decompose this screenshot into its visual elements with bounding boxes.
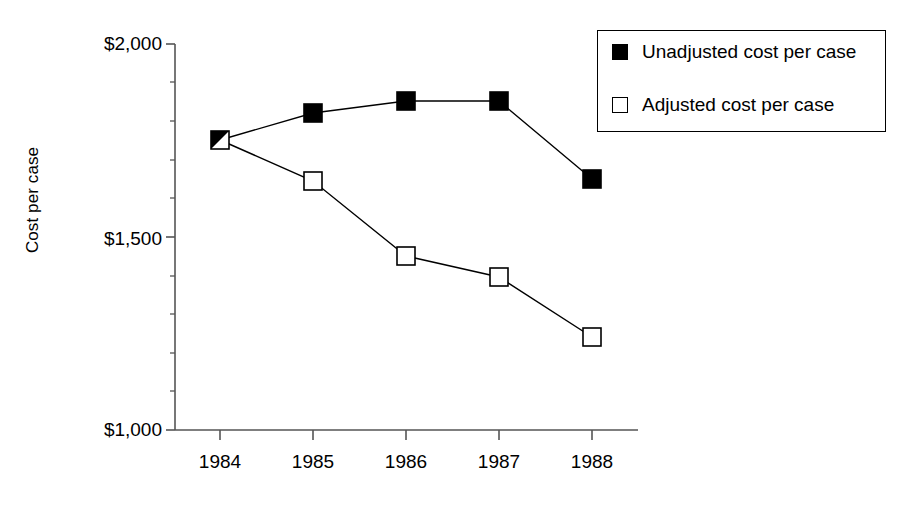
data-point-unadjusted-1985 bbox=[304, 104, 322, 122]
data-point-adjusted-1986 bbox=[397, 247, 415, 265]
data-point-adjusted-1988 bbox=[583, 328, 601, 346]
legend-item-adjusted[interactable]: Adjusted cost per case bbox=[612, 93, 834, 117]
x-ticks bbox=[220, 430, 592, 440]
data-point-unadjusted-1986 bbox=[397, 92, 415, 110]
chart-figure: Cost per case $2,000 $1,500 $1,000 1984 … bbox=[0, 0, 907, 510]
y-major-ticks bbox=[166, 44, 175, 430]
open-square-icon bbox=[612, 97, 628, 113]
chart-legend: Unadjusted cost per case Adjusted cost p… bbox=[597, 30, 886, 132]
series-line-unadjusted bbox=[220, 101, 592, 179]
filled-square-icon bbox=[612, 44, 628, 60]
legend-label-unadjusted: Unadjusted cost per case bbox=[642, 40, 856, 64]
data-point-unadjusted-1988 bbox=[583, 170, 601, 188]
series-line-adjusted bbox=[220, 140, 592, 337]
data-point-adjusted-1987 bbox=[490, 268, 508, 286]
data-point-adjusted-1985 bbox=[304, 172, 322, 190]
data-point-unadjusted-1987 bbox=[490, 92, 508, 110]
legend-label-adjusted: Adjusted cost per case bbox=[642, 93, 834, 117]
series-markers-unadjusted bbox=[304, 92, 601, 188]
legend-item-unadjusted[interactable]: Unadjusted cost per case bbox=[612, 40, 856, 64]
data-point-shared-1984 bbox=[211, 131, 229, 149]
series-markers-adjusted bbox=[304, 172, 601, 346]
